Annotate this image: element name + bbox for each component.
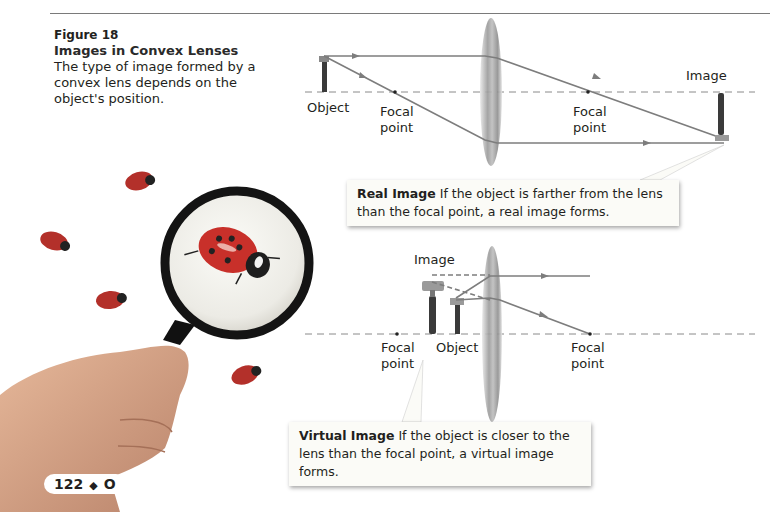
ladybug-icon	[95, 290, 127, 311]
image-hammer-icon	[715, 93, 729, 141]
arrow-icon	[352, 53, 360, 59]
callout-title: Real Image	[357, 186, 436, 201]
ray-to-focal	[456, 298, 590, 334]
magnifier-handle	[163, 320, 195, 345]
callout-title: Virtual Image	[299, 428, 394, 443]
arrow-icon	[359, 72, 367, 78]
page-number-badge: 122◆O	[44, 474, 126, 494]
virtual-image-callout: Virtual Image If the object is closer to…	[289, 422, 591, 486]
section-letter: O	[104, 476, 116, 492]
diamond-icon: ◆	[89, 479, 97, 492]
ladybug-icon	[229, 361, 264, 389]
label-focal-point-left: Focal point	[381, 340, 421, 372]
arrow-icon	[541, 273, 549, 279]
real-image-callout: Real Image If the object is farther from…	[347, 180, 679, 226]
object-hammer-icon	[319, 56, 329, 92]
callout-pointer	[640, 145, 724, 180]
magnifier-photo	[0, 168, 309, 512]
focal-point-dot	[586, 90, 590, 94]
label-object: Object	[307, 100, 349, 116]
page-number: 122	[54, 476, 83, 492]
ladybug-icon	[123, 168, 157, 193]
ladybug-icon	[38, 229, 73, 254]
label-focal-point-right: Focal point	[573, 104, 613, 136]
ray-parallel	[456, 276, 590, 298]
label-image: Image	[414, 252, 455, 268]
object-hammer-icon	[450, 298, 464, 334]
arrow-icon	[643, 140, 651, 146]
focal-point-dot	[393, 90, 397, 94]
arrow-icon	[539, 311, 548, 317]
focal-point-dot	[395, 332, 399, 336]
image-hammer-icon	[422, 281, 444, 334]
arrow-icon	[592, 73, 601, 79]
convex-lens-icon	[482, 246, 502, 422]
focal-point-dot	[588, 332, 592, 336]
label-focal-point-right: Focal point	[571, 340, 611, 372]
real-image-diagram	[305, 18, 755, 180]
label-image: Image	[686, 68, 727, 84]
virtual-image-diagram	[305, 246, 755, 422]
label-focal-point-left: Focal point	[380, 104, 420, 136]
label-object: Object	[436, 340, 478, 356]
